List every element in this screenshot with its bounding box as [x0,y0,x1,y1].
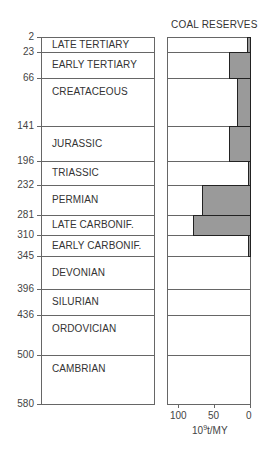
chart-boundary-line [167,315,251,316]
coal-reserve-bar [247,37,251,53]
y-tick-label: 310 [4,229,34,240]
period-label: PERMIAN [52,194,98,205]
y-tick-label: 23 [4,46,34,57]
chart-boundary-line [167,37,251,38]
period-label: ORDOVICIAN [52,323,116,334]
coal-reserve-bar [229,52,251,79]
period-label: CAMBRIAN [52,363,106,374]
period-label: DEVONIAN [52,267,105,278]
x-tick-mark [178,404,179,408]
y-tick-label: 396 [4,283,34,294]
chart-title: COAL RESERVES [171,19,258,30]
period-label: LATE TERTIARY [52,39,129,50]
coal-reserve-bar [237,78,251,127]
period-label: JURASSIC [52,138,102,149]
left-axis-line [41,37,42,405]
period-boundary-line [37,355,155,356]
period-boundary-line [37,256,155,257]
coal-reserve-bar [248,161,251,186]
period-label: TRIASSIC [52,167,99,178]
period-label: CREATACEOUS [52,86,128,97]
x-tick-label: 50 [208,410,219,421]
period-boundary-line [37,78,155,79]
y-tick-label: 232 [4,179,34,190]
chart-boundary-line [167,355,251,356]
chart-boundary-line [167,404,251,405]
period-label: SILURIAN [52,296,99,307]
y-tick-label: 345 [4,250,34,261]
period-label: EARLY TERTIARY [52,59,137,70]
period-boundary-line [37,235,155,236]
x-tick-label: 100 [170,410,187,421]
y-tick-label: 2 [4,31,34,42]
coal-reserve-bar [193,215,251,236]
chart-left-edge [167,37,168,405]
period-boundary-line [37,126,155,127]
y-tick-label: 436 [4,309,34,320]
period-boundary-line [37,161,155,162]
y-tick-label: 66 [4,72,34,83]
chart-boundary-line [167,289,251,290]
period-boundary-line [37,289,155,290]
period-boundary-line [37,215,155,216]
chart-boundary-line [167,256,251,257]
coal-reserve-bar [202,185,251,216]
coal-reserve-bar [248,235,251,257]
x-axis-label: 109t/MY [192,424,228,436]
period-boundary-line [37,52,155,53]
y-tick-label: 141 [4,120,34,131]
y-tick-label: 281 [4,209,34,220]
x-tick-mark [214,404,215,408]
y-tick-label: 580 [4,398,34,409]
period-boundary-line [37,315,155,316]
x-tick-mark [250,404,251,408]
coal-reserve-bar [229,126,251,162]
period-label: EARLY CARBONIF. [52,240,142,251]
period-boundary-line [37,404,155,405]
y-tick-label: 196 [4,155,34,166]
left-panel-right-edge [154,37,155,405]
period-label: LATE CARBONIF. [52,219,134,230]
x-tick-label: 0 [246,410,252,421]
period-boundary-line [37,185,155,186]
y-tick-label: 500 [4,349,34,360]
